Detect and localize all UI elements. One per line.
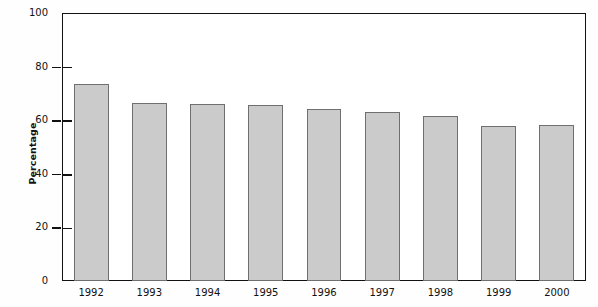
x-tick-label: 1993 [120,286,178,300]
bar [248,105,283,281]
y-tick-mark [52,120,61,122]
y-tick-label: 40 [35,167,48,180]
x-axis-ticks: 199219931994199519961997199819992000 [62,284,586,307]
x-tick-label: 1992 [62,286,120,300]
bar [190,104,225,281]
bar-slot [248,13,283,281]
bar [365,112,400,281]
bar [74,84,109,281]
x-tick-label: 1997 [353,286,411,300]
bar-chart: Percentage 020406080100 1992199319941995… [0,0,598,307]
y-tick-mark [52,174,61,176]
bar-slot [423,13,458,281]
y-tick-mark [52,67,61,69]
y-tick-label: 20 [35,220,48,233]
y-tick-label: 80 [35,60,48,73]
x-tick-label: 2000 [528,286,586,300]
x-tick-label: 1995 [237,286,295,300]
bar-slot [481,13,516,281]
bar-slot [539,13,574,281]
bar [539,125,574,281]
x-tick-label: 1994 [178,286,236,300]
y-tick-label: 100 [29,6,48,19]
bar [423,116,458,281]
y-tick-label: 0 [42,274,48,287]
bar [481,126,516,281]
x-tick-label: 1996 [295,286,353,300]
y-tick-mark [52,227,61,229]
bar-slot [307,13,342,281]
bar-slot [74,13,109,281]
x-tick-label: 1998 [411,286,469,300]
bar-slot [365,13,400,281]
bar [307,109,342,281]
bars-layer [62,13,586,281]
y-tick-label: 60 [35,113,48,126]
x-tick-label: 1999 [470,286,528,300]
bar [132,103,167,281]
bar-slot [132,13,167,281]
bar-slot [190,13,225,281]
y-axis-ticks: 020406080100 [0,0,62,307]
